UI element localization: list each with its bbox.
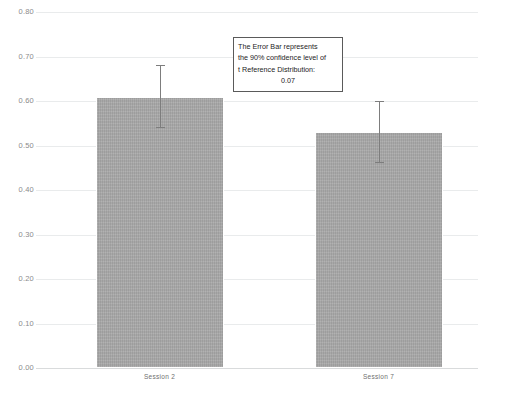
annotation-line-2: the 90% confidence level of — [238, 52, 338, 63]
y-axis-tick-label: 0.50 — [2, 142, 34, 150]
error-bar-session-2 — [160, 65, 161, 127]
annotation-line-4: 0.07 — [238, 75, 338, 86]
bar-session-2 — [96, 97, 224, 368]
bar-chart: 0.800.700.600.500.400.300.200.100.00 The… — [0, 0, 530, 397]
error-bar-cap — [375, 162, 384, 163]
gridline — [36, 12, 478, 13]
x-axis-tick-label: Session 2 — [144, 374, 175, 381]
y-axis-tick-label: 0.70 — [2, 53, 34, 61]
gridline — [36, 368, 478, 369]
y-axis-tick-label: 0.80 — [2, 8, 34, 16]
y-axis-tick-label: 0.00 — [2, 364, 34, 372]
error-bar-cap — [156, 65, 165, 66]
y-axis-tick-label: 0.20 — [2, 275, 34, 283]
y-axis-tick-label: 0.10 — [2, 320, 34, 328]
x-axis-tick-label: Session 7 — [363, 374, 394, 381]
y-axis-tick-label: 0.30 — [2, 231, 34, 239]
y-axis-tick-label: 0.40 — [2, 186, 34, 194]
error-bar-annotation: The Error Bar represents the 90% confide… — [233, 37, 343, 92]
y-axis: 0.800.700.600.500.400.300.200.100.00 — [0, 12, 34, 368]
annotation-line-1: The Error Bar represents — [238, 41, 338, 52]
error-bar-cap — [156, 127, 165, 128]
y-axis-tick-label: 0.60 — [2, 97, 34, 105]
annotation-line-3: t Reference Distribution: — [238, 64, 338, 75]
bar-session-7 — [315, 132, 443, 368]
error-bar-session-7 — [379, 101, 380, 163]
error-bar-cap — [375, 101, 384, 102]
